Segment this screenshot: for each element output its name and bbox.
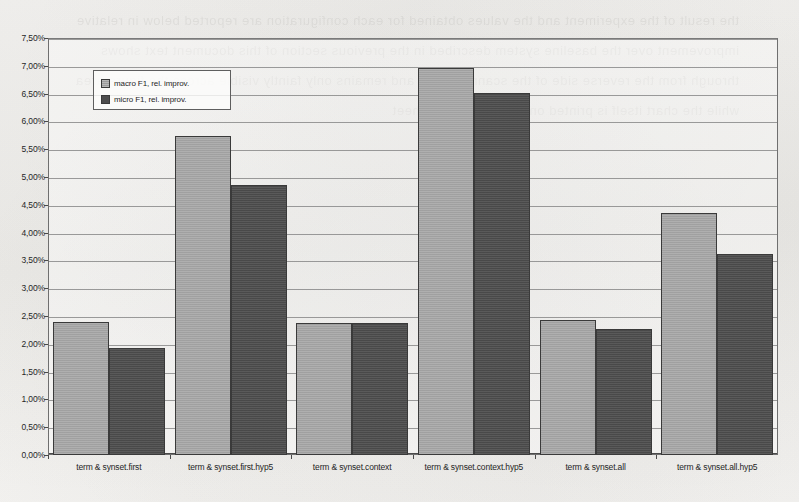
bar-group <box>418 38 530 455</box>
bar-group <box>296 38 408 455</box>
x-axis-tick-mark <box>48 455 49 459</box>
bar-group <box>661 38 773 455</box>
y-axis-tick-label: 1,00% <box>0 394 45 404</box>
y-axis-tick-label: 5,50% <box>0 144 45 154</box>
legend-label-macro: macro F1, rel. improv. <box>114 79 189 88</box>
bar-micro <box>109 348 165 455</box>
y-axis-tick-label: 7,00% <box>0 61 45 71</box>
x-axis-tick-label: term & synset.first <box>48 462 170 472</box>
bar-micro <box>596 329 652 455</box>
y-axis-tick-label: 4,50% <box>0 200 45 210</box>
y-axis-tick-label: 3,00% <box>0 283 45 293</box>
y-axis-tick-label: 6,00% <box>0 116 45 126</box>
legend-swatch-macro-icon <box>101 79 110 88</box>
bar-micro <box>231 185 287 455</box>
bar-macro <box>296 323 352 455</box>
bar-group <box>540 38 652 455</box>
x-axis-tick-mark <box>535 455 536 459</box>
legend-swatch-micro-icon <box>101 95 110 104</box>
bar-macro <box>53 322 109 455</box>
x-axis-tick-mark <box>413 455 414 459</box>
y-axis-tick-label: 2,50% <box>0 311 45 321</box>
legend-item: macro F1, rel. improv. <box>101 76 230 91</box>
y-axis-tick-label: 0,50% <box>0 422 45 432</box>
x-axis-tick-label: term & synset.all <box>535 462 657 472</box>
y-axis-tick-label: 6,50% <box>0 89 45 99</box>
y-axis-tick-label: 2,00% <box>0 339 45 349</box>
x-axis-tick-label: term & synset.first.hyp5 <box>170 462 292 472</box>
x-axis-tick-mark <box>170 455 171 459</box>
x-axis-tick-mark <box>291 455 292 459</box>
y-axis-tick-label: 7,50% <box>0 33 45 43</box>
y-axis-tick-label: 5,00% <box>0 172 45 182</box>
y-axis-tick-label: 0,00% <box>0 450 45 460</box>
bar-micro <box>352 323 408 455</box>
bar-chart: 0,00%0,50%1,00%1,50%2,00%2,50%3,00%3,50%… <box>0 0 799 502</box>
bar-macro <box>540 320 596 455</box>
x-axis-tick-label: term & synset.context.hyp5 <box>413 462 535 472</box>
bar-micro <box>717 254 773 455</box>
legend-label-micro: micro F1, rel. improv. <box>114 95 186 104</box>
y-axis-tick-label: 1,50% <box>0 367 45 377</box>
bar-macro <box>418 68 474 455</box>
legend: macro F1, rel. improv. micro F1, rel. im… <box>93 70 231 110</box>
bar-macro <box>175 136 231 455</box>
bar-macro <box>661 213 717 455</box>
y-axis-tick-label: 3,50% <box>0 255 45 265</box>
bar-micro <box>474 93 530 456</box>
x-axis-tick-label: term & synset.all.hyp5 <box>656 462 778 472</box>
legend-item: micro F1, rel. improv. <box>101 92 230 107</box>
y-axis-tick-label: 4,00% <box>0 228 45 238</box>
x-axis-tick-mark <box>656 455 657 459</box>
x-axis-tick-label: term & synset.context <box>291 462 413 472</box>
